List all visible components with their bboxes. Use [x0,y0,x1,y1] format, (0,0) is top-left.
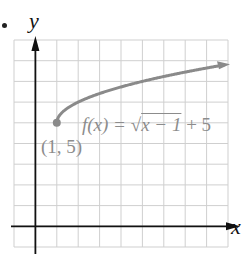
function-label-radicand: x − 1 [141,114,181,135]
y-axis-label: y [29,10,39,32]
function-label-prefix: f(x) = [82,114,131,135]
function-label-suffix: + 5 [181,114,211,135]
function-label: f(x) = √x − 1 + 5 [82,115,211,134]
x-axis-label: x [231,216,241,238]
point-label: (1, 5) [41,137,82,156]
sqrt-icon: √ [131,114,141,135]
